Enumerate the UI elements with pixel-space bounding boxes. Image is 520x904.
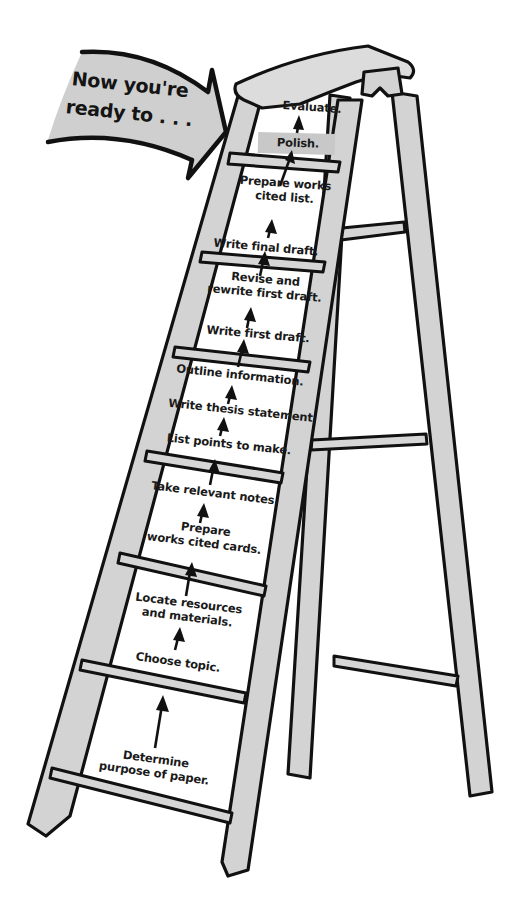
step-label-line: Polish. — [258, 135, 338, 152]
up-arrow-icon — [217, 417, 229, 436]
rear-crossbar-1 — [341, 222, 405, 240]
rear-crossbar-3 — [334, 656, 458, 686]
step-polish: Polish. — [258, 135, 338, 152]
ladder-top — [235, 46, 414, 108]
ladder-diagram: Now you're ready to . . . Evaluate. Poli… — [0, 0, 520, 904]
up-arrow-icon — [265, 219, 277, 238]
up-arrow-icon — [244, 307, 256, 328]
up-arrow-icon — [197, 503, 209, 523]
up-arrow-icon — [173, 627, 185, 650]
rung-1 — [228, 153, 340, 172]
top-bracket — [362, 68, 402, 96]
up-arrow-icon — [293, 115, 304, 133]
up-arrow-icon — [155, 695, 169, 748]
